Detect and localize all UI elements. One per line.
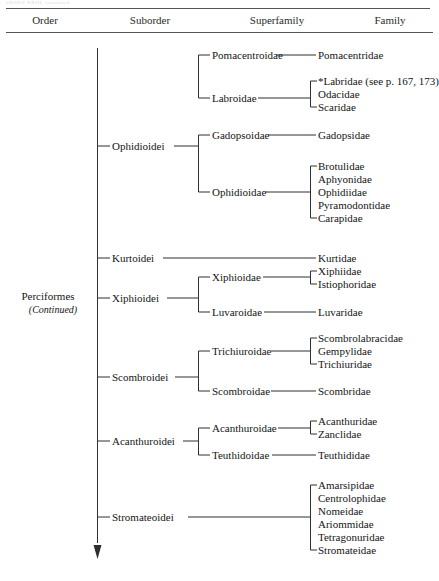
family-zanclidae[interactable]: Zanclidae bbox=[318, 428, 361, 440]
family-amarsipidae[interactable]: Amarsipidae bbox=[318, 479, 374, 491]
suborder-stromateoidei[interactable]: Stromateoidei bbox=[112, 511, 174, 523]
superfamily-teuthidoidae[interactable]: Teuthidoidae bbox=[212, 449, 269, 461]
suborder-acanthuroidei[interactable]: Acanthuroidei bbox=[112, 435, 175, 447]
superfamily-xiphioidae[interactable]: Xiphioidae bbox=[212, 271, 261, 283]
family-aphyonidae[interactable]: Aphyonidae bbox=[318, 173, 372, 185]
family-trichiuridae[interactable]: Trichiuridae bbox=[318, 358, 372, 370]
trunk-arrow-icon bbox=[94, 545, 102, 559]
superfamily-ophidioidae[interactable]: Ophidioidae bbox=[212, 186, 266, 198]
superfamily-scombroidae[interactable]: Scombroidae bbox=[212, 385, 270, 397]
family-ariommidae[interactable]: Ariommidae bbox=[318, 518, 374, 530]
family-xiphiidae[interactable]: Xiphiidae bbox=[318, 265, 361, 277]
family-nomeidae[interactable]: Nomeidae bbox=[318, 505, 363, 517]
superfamily-gadopsoidae[interactable]: Gadopsoidae bbox=[212, 129, 269, 141]
family-odacidae[interactable]: Odacidae bbox=[318, 88, 360, 100]
family-gadopsidae[interactable]: Gadopsidae bbox=[318, 129, 370, 141]
family-stromateidae[interactable]: Stromateidae bbox=[318, 544, 376, 556]
suborder-xiphioidei[interactable]: Xiphioidei bbox=[112, 292, 159, 304]
superfamily-acanthuroidae[interactable]: Acanthuroidae bbox=[212, 422, 277, 434]
suborder-scombroidei[interactable]: Scombroidei bbox=[112, 371, 168, 383]
family-gempylidae[interactable]: Gempylidae bbox=[318, 345, 372, 357]
family-tetragonuridae[interactable]: Tetragonuridae bbox=[318, 531, 384, 543]
family-pomacentridae[interactable]: Pomacentridae bbox=[318, 49, 383, 61]
family-labridae[interactable]: *Labridae (see p. 167, 173) bbox=[318, 75, 439, 87]
family-brotulidae[interactable]: Brotulidae bbox=[318, 160, 364, 172]
family-scaridae[interactable]: Scaridae bbox=[318, 101, 356, 113]
family-centrolophidae[interactable]: Centrolophidae bbox=[318, 492, 386, 504]
suborder-ophidioidei[interactable]: Ophidioidei bbox=[112, 140, 165, 152]
diagram-page: GROUP XXIII. continued Order Suborder Su… bbox=[0, 0, 439, 581]
family-scombrolabracidae[interactable]: Scombrolabracidae bbox=[318, 332, 403, 344]
family-pyramodontidae[interactable]: Pyramodontidae bbox=[318, 199, 390, 211]
family-teuthididae[interactable]: Teuthididae bbox=[318, 449, 370, 461]
superfamily-labroidae[interactable]: Labroidae bbox=[212, 92, 257, 104]
superfamily-pomacentroidae[interactable]: Pomacentroidae bbox=[212, 49, 283, 61]
family-scombridae[interactable]: Scombridae bbox=[318, 385, 371, 397]
family-carapidae[interactable]: Carapidae bbox=[318, 212, 363, 224]
family-ophidiidae[interactable]: Ophidiidae bbox=[318, 186, 367, 198]
family-kurtidae[interactable]: Kurtidae bbox=[318, 252, 356, 264]
superfamily-luvaroidae[interactable]: Luvaroidae bbox=[212, 306, 262, 318]
family-luvaridae[interactable]: Luvaridae bbox=[318, 306, 363, 318]
family-istiophoridae[interactable]: Istiophoridae bbox=[318, 278, 376, 290]
suborder-kurtoidei[interactable]: Kurtoidei bbox=[112, 252, 154, 264]
superfamily-trichiuroidae[interactable]: Trichiuroidae bbox=[212, 345, 271, 357]
family-acanthuridae[interactable]: Acanthuridae bbox=[318, 415, 377, 427]
